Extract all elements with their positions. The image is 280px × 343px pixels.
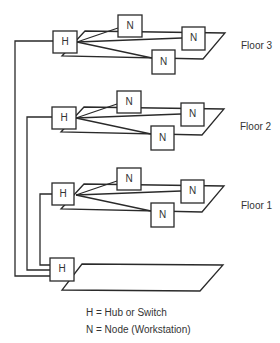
link-hub-node-2 bbox=[76, 191, 181, 195]
svg-text:H: H bbox=[61, 36, 68, 47]
legend-hub: H = Hub or Switch bbox=[86, 307, 167, 318]
legend-node: N = Node (Workstation) bbox=[86, 324, 191, 335]
svg-text:N: N bbox=[159, 209, 166, 220]
node-box: N bbox=[152, 50, 175, 74]
svg-text:H: H bbox=[60, 112, 67, 123]
trunk-wire-floor-3 bbox=[15, 41, 53, 276]
floor-3: H N N N Floor 3 bbox=[53, 15, 273, 74]
node-box: N bbox=[181, 103, 204, 126]
node-box: N bbox=[151, 203, 174, 227]
link-hub-node-3 bbox=[76, 195, 151, 211]
link-hub-node-2 bbox=[77, 38, 182, 42]
node-box: N bbox=[118, 15, 142, 37]
svg-text:N: N bbox=[125, 173, 132, 184]
node-box: N bbox=[182, 27, 205, 50]
svg-text:N: N bbox=[125, 96, 132, 107]
floor-label: Floor 3 bbox=[241, 40, 273, 51]
svg-text:N: N bbox=[160, 56, 167, 67]
node-box: N bbox=[117, 91, 141, 113]
link-hub-node-1 bbox=[76, 181, 117, 195]
floor-label: Floor 2 bbox=[240, 121, 272, 132]
hub-box: H bbox=[50, 258, 74, 281]
hub-box: H bbox=[52, 107, 76, 129]
link-hub-node-2 bbox=[76, 114, 181, 118]
link-hub-node-3 bbox=[76, 118, 151, 134]
svg-text:N: N bbox=[190, 32, 197, 43]
floor-plane bbox=[62, 264, 223, 291]
node-box: N bbox=[151, 126, 174, 150]
floor-2: H N N N Floor 2 bbox=[52, 91, 272, 150]
link-hub-node-3 bbox=[77, 42, 152, 58]
svg-text:N: N bbox=[159, 132, 166, 143]
trunk-wires bbox=[15, 41, 53, 276]
svg-text:N: N bbox=[189, 108, 196, 119]
legend: H = Hub or Switch N = Node (Workstation) bbox=[86, 307, 191, 335]
svg-text:N: N bbox=[189, 185, 196, 196]
link-hub-node-1 bbox=[76, 104, 117, 118]
svg-text:N: N bbox=[126, 20, 133, 31]
hub-box: H bbox=[52, 183, 74, 205]
network-diagram: H N N N Floor 3 H N N bbox=[0, 0, 280, 343]
floor-1: H N N N Floor 1 bbox=[52, 168, 273, 227]
trunk-wire-floor-1 bbox=[40, 194, 52, 265]
link-hub-node-1 bbox=[77, 28, 118, 42]
svg-text:H: H bbox=[58, 263, 65, 274]
node-box: N bbox=[181, 180, 204, 203]
floor-label: Floor 1 bbox=[241, 200, 273, 211]
hub-box: H bbox=[53, 31, 77, 53]
svg-text:H: H bbox=[59, 188, 66, 199]
node-box: N bbox=[117, 168, 141, 190]
basement: H bbox=[50, 258, 223, 291]
